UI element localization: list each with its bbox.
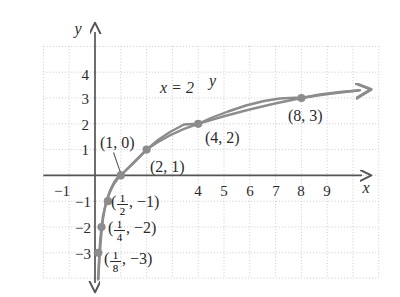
point-label-2-1: (2, 1) (150, 158, 185, 176)
data-point-2-1[interactable] (143, 146, 151, 154)
x-tick-8: 8 (297, 183, 305, 199)
data-point-1-0[interactable] (117, 171, 125, 179)
equation-label-base: x = 2 (159, 79, 194, 96)
x-tick-7: 7 (272, 183, 280, 199)
point-label-eighth-denominator: 8 (113, 262, 119, 274)
point-label-quarter-numerator: 1 (117, 218, 123, 230)
equation-label-exponent: y (207, 72, 217, 90)
data-point-8-3[interactable] (297, 94, 305, 102)
y-tick-1: 1 (82, 142, 90, 158)
data-point-1-4-neg2[interactable] (97, 223, 105, 231)
point-label-quarter-paren: ( (108, 219, 113, 237)
point-label-quarter-denominator: 4 (117, 231, 123, 243)
y-tick-3: 3 (82, 91, 90, 107)
point-label-half-paren: ( (111, 193, 116, 211)
point-label-8-3: (8, 3) (288, 107, 323, 125)
point-label-eighth-rest: , −3) (122, 250, 152, 268)
point-label-1-0: (1, 0) (100, 134, 135, 152)
y-axis-label: y (72, 20, 82, 38)
point-label-4-2: (4, 2) (205, 129, 240, 147)
point-label-eighth-numerator: 1 (113, 249, 119, 261)
graph-figure: y x x = 2 y 4 3 2 1 −1 −2 −3 −1 4 5 6 7 … (0, 0, 400, 297)
y-tick-neg1: −1 (75, 194, 91, 210)
figure-background (0, 0, 400, 297)
point-label-half-denominator: 2 (120, 205, 126, 217)
y-tick-4: 4 (82, 67, 90, 83)
coordinate-plane-svg: y x x = 2 y 4 3 2 1 −1 −2 −3 −1 4 5 6 7 … (0, 0, 400, 297)
data-point-1-8-neg3[interactable] (94, 249, 102, 257)
y-tick-neg3: −3 (75, 246, 91, 262)
point-label-quarter-rest: , −2) (126, 219, 156, 237)
x-tick-neg1: −1 (54, 183, 70, 199)
x-tick-6: 6 (246, 183, 254, 199)
x-tick-4: 4 (194, 183, 202, 199)
x-tick-9: 9 (323, 183, 331, 199)
y-tick-2: 2 (82, 117, 90, 133)
point-label-half-rest: , −1) (129, 193, 159, 211)
y-tick-neg2: −2 (75, 220, 91, 236)
point-label-half-numerator: 1 (120, 192, 126, 204)
data-point-4-2[interactable] (194, 120, 202, 128)
x-axis-label: x (361, 179, 369, 196)
point-label-eighth-paren: ( (104, 250, 109, 268)
x-tick-5: 5 (220, 183, 228, 199)
